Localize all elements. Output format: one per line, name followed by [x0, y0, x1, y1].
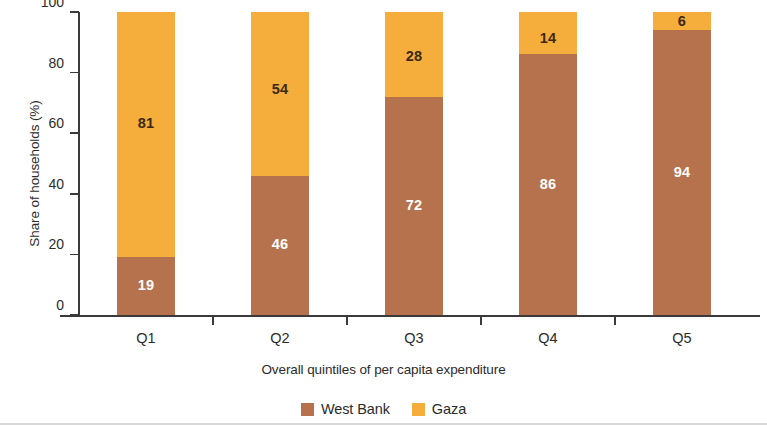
bar-group-q3[interactable]: 2872 — [385, 12, 443, 315]
x-axis-label-q5: Q5 — [642, 330, 722, 346]
y-axis-tick-label: 100 — [0, 0, 64, 10]
stacked-bar-chart: Share of households (%) 020406080100 811… — [0, 0, 767, 425]
y-axis-title: Share of households (%) — [27, 44, 42, 304]
bar-value-label: 28 — [385, 48, 443, 64]
legend-swatch-icon — [412, 403, 425, 416]
bar-segment-gaza-q1[interactable]: 81 — [117, 12, 175, 257]
bar-segment-west-bank-q3[interactable]: 72 — [385, 97, 443, 315]
chart-legend: West BankGaza — [0, 401, 767, 417]
bar-segment-gaza-q5[interactable]: 6 — [653, 12, 711, 30]
y-axis-line — [78, 12, 80, 316]
bar-value-label: 54 — [251, 81, 309, 97]
bar-value-label: 72 — [385, 197, 443, 213]
bar-group-q1[interactable]: 8119 — [117, 12, 175, 315]
x-axis-label-q2: Q2 — [240, 330, 320, 346]
bar-value-label: 19 — [117, 277, 175, 293]
bar-segment-gaza-q2[interactable]: 54 — [251, 12, 309, 176]
bar-group-q2[interactable]: 5446 — [251, 12, 309, 315]
bar-value-label: 81 — [117, 115, 175, 131]
y-axis-tick-label: 60 — [0, 115, 64, 131]
bar-group-q5[interactable]: 694 — [653, 12, 711, 315]
legend-swatch-icon — [301, 403, 314, 416]
legend-item-gaza[interactable]: Gaza — [412, 401, 466, 417]
y-axis-tick — [70, 132, 79, 134]
legend-label: West Bank — [321, 401, 390, 417]
y-axis-tick — [70, 11, 79, 13]
bar-value-label: 6 — [653, 13, 711, 29]
x-axis-tick — [212, 316, 214, 325]
y-axis-tick — [70, 193, 79, 195]
bar-segment-gaza-q3[interactable]: 28 — [385, 12, 443, 97]
y-axis-tick-label: 40 — [0, 176, 64, 192]
y-axis-tick-label: 20 — [0, 236, 64, 252]
x-axis-title: Overall quintiles of per capita expendit… — [0, 362, 767, 377]
bar-segment-west-bank-q5[interactable]: 94 — [653, 30, 711, 315]
bar-group-q4[interactable]: 1486 — [519, 12, 577, 315]
y-axis-tick — [70, 314, 79, 316]
bar-segment-west-bank-q1[interactable]: 19 — [117, 257, 175, 315]
x-axis-label-q1: Q1 — [106, 330, 186, 346]
x-axis-label-q4: Q4 — [508, 330, 588, 346]
legend-label: Gaza — [432, 401, 466, 417]
bar-value-label: 94 — [653, 164, 711, 180]
x-axis-line — [60, 315, 760, 317]
bar-segment-gaza-q4[interactable]: 14 — [519, 12, 577, 54]
y-axis-tick — [70, 72, 79, 74]
bar-value-label: 86 — [519, 176, 577, 192]
x-axis-tick — [614, 316, 616, 325]
x-axis-label-q3: Q3 — [374, 330, 454, 346]
bar-segment-west-bank-q2[interactable]: 46 — [251, 176, 309, 315]
bar-value-label: 46 — [251, 236, 309, 252]
y-axis-tick — [70, 254, 79, 256]
bar-value-label: 14 — [519, 30, 577, 46]
bar-segment-west-bank-q4[interactable]: 86 — [519, 54, 577, 315]
y-axis-tick-label: 0 — [0, 297, 64, 313]
legend-item-west-bank[interactable]: West Bank — [301, 401, 390, 417]
x-axis-tick — [346, 316, 348, 325]
x-axis-tick — [480, 316, 482, 325]
y-axis-tick-label: 80 — [0, 55, 64, 71]
